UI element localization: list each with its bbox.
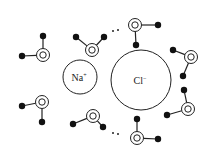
hydrogen-atom xyxy=(155,22,161,28)
hydrogen-atom xyxy=(100,124,106,130)
water-molecule xyxy=(129,19,162,49)
ions: Na+Cl− xyxy=(63,50,171,110)
hydrogen-atom xyxy=(40,33,46,39)
hbond-dot xyxy=(117,133,119,135)
hydrogen-atom xyxy=(170,47,176,53)
hbond-dot xyxy=(117,29,119,31)
water-molecule xyxy=(131,116,162,145)
chloride-charge: − xyxy=(143,75,147,81)
oxygen-atom-outer xyxy=(86,44,99,57)
sodium-ion-label: Na+ xyxy=(71,72,87,83)
hydrogen-bond-dots xyxy=(112,29,119,32)
chloride-ion-label: Cl− xyxy=(134,75,147,86)
hydrogen-atom xyxy=(134,116,140,122)
oxygen-atom-outer xyxy=(129,19,142,32)
chloride-ion: Cl− xyxy=(111,50,171,110)
oxygen-atom-outer xyxy=(87,110,100,123)
oxygen-atom-outer xyxy=(36,96,49,109)
oxygen-atom-outer xyxy=(131,132,144,145)
oxygen-atom-outer xyxy=(37,49,50,62)
ion-hydration-diagram: Na+Cl− xyxy=(0,0,210,153)
hydrogen-atom xyxy=(155,136,161,142)
hydrogen-atom xyxy=(39,119,45,125)
water-molecule xyxy=(73,34,107,57)
hydrogen-atom xyxy=(19,53,25,59)
water-molecule xyxy=(19,96,49,126)
oxygen-atom-outer xyxy=(182,103,195,116)
sodium-ion: Na+ xyxy=(63,60,97,94)
sodium-charge: + xyxy=(83,72,87,78)
oxygen-atom-outer xyxy=(185,51,198,64)
hydrogen-atom xyxy=(181,87,187,93)
hydrogen-bond-dots xyxy=(112,132,119,135)
hbond-dot xyxy=(112,30,114,32)
water-molecule xyxy=(170,47,198,79)
hbond-dot xyxy=(112,132,114,134)
hydrogen-atom xyxy=(101,34,107,40)
hydrogen-atom xyxy=(164,112,170,118)
water-molecule xyxy=(19,33,50,62)
hydrogen-atom xyxy=(73,34,79,40)
hydrogen-bonds xyxy=(112,29,119,135)
hydrogen-atom xyxy=(133,42,139,48)
hydrogen-atom xyxy=(180,73,186,79)
water-molecule xyxy=(70,110,106,131)
hydrogen-atom xyxy=(70,121,76,127)
hydrogen-atom xyxy=(19,103,25,109)
